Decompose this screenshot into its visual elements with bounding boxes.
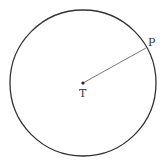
center-label: T <box>79 87 87 100</box>
center-point <box>81 81 84 84</box>
radius-segment-tp <box>83 48 146 83</box>
point-label: P <box>148 36 156 49</box>
circle-diagram: T P <box>0 0 165 167</box>
